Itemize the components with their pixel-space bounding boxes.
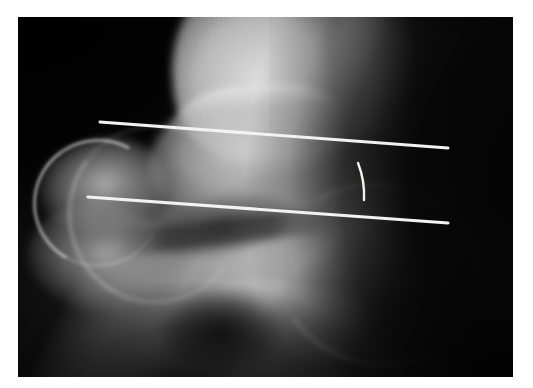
xray-image [18, 17, 513, 377]
radiograph-page [0, 0, 533, 388]
xray-dark-region-bottom-left [18, 17, 513, 377]
